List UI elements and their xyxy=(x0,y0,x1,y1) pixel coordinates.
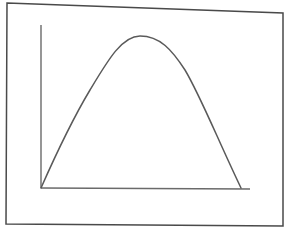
x-axis xyxy=(41,188,250,189)
background xyxy=(0,0,288,233)
diagram-canvas xyxy=(0,0,288,233)
